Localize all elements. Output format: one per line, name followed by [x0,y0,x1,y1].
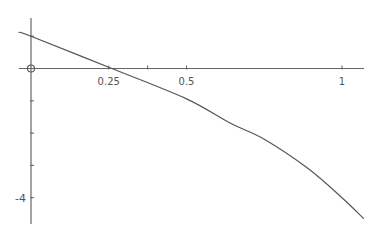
x-tick-label: 0.5 [179,76,195,87]
x-tick-label: 1 [339,76,345,87]
axes [19,18,364,224]
y-tick-label: -4 [15,192,26,205]
function-curve [19,32,364,218]
function-plot: 0.250.51-4 [0,0,376,233]
x-tick-label: 0.25 [98,76,120,87]
tick-labels: 0.250.51-4 [15,76,345,205]
